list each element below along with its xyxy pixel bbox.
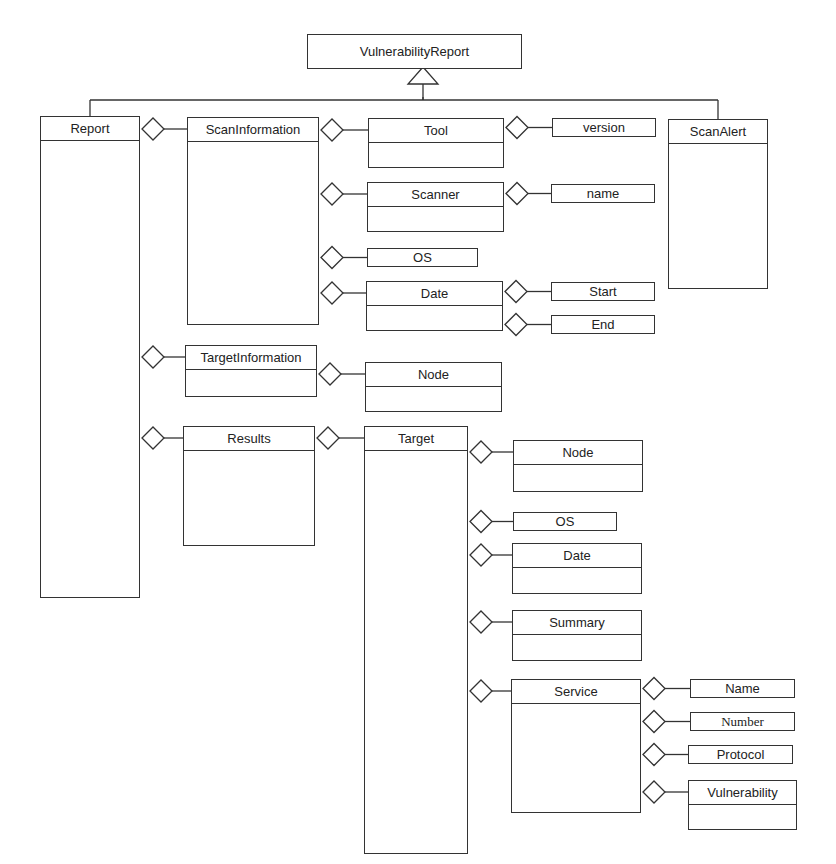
class-title: TargetInformation bbox=[186, 346, 316, 370]
class-version: version bbox=[552, 118, 656, 137]
aggregation-diamond-icon bbox=[321, 247, 343, 269]
class-scan-alert: ScanAlert bbox=[668, 119, 768, 289]
aggregation-diamond-icon bbox=[321, 282, 343, 304]
class-target: Target bbox=[364, 426, 468, 854]
class-start: Start bbox=[551, 282, 655, 301]
aggregation-diamond-icon bbox=[321, 119, 343, 141]
class-results: Results bbox=[183, 426, 315, 546]
class-title: VulnerabilityReport bbox=[308, 35, 521, 68]
class-title: Report bbox=[41, 117, 139, 141]
class-title: End bbox=[552, 316, 654, 333]
class-title: version bbox=[553, 119, 655, 136]
class-title: ScanInformation bbox=[188, 118, 318, 142]
class-title: Start bbox=[552, 283, 654, 300]
class-title: OS bbox=[514, 513, 616, 530]
aggregation-diamond-icon bbox=[505, 281, 527, 303]
class-title: Vulnerability bbox=[689, 781, 796, 805]
class-service: Service bbox=[511, 679, 641, 813]
class-os-scan: OS bbox=[367, 248, 478, 267]
aggregation-diamond-icon bbox=[643, 744, 665, 766]
class-target-information: TargetInformation bbox=[185, 345, 317, 397]
class-date-t: Date bbox=[512, 543, 642, 594]
aggregation-diamond-icon bbox=[505, 314, 527, 336]
aggregation-diamond-icon bbox=[317, 427, 339, 449]
aggregation-diamond-icon bbox=[142, 427, 164, 449]
class-title: Results bbox=[184, 427, 314, 451]
class-svc-number: Number bbox=[690, 712, 795, 731]
class-title: Tool bbox=[369, 119, 503, 143]
aggregation-diamond-icon bbox=[470, 611, 492, 633]
aggregation-diamond-icon bbox=[142, 346, 164, 368]
class-summary: Summary bbox=[512, 610, 642, 661]
class-title: Name bbox=[691, 680, 794, 697]
class-svc-vulnerability: Vulnerability bbox=[688, 780, 797, 830]
aggregation-diamond-icon bbox=[470, 511, 492, 533]
aggregation-diamond-icon bbox=[319, 363, 341, 385]
class-name: name bbox=[551, 184, 655, 203]
class-title: Scanner bbox=[368, 183, 503, 207]
class-title: ScanAlert bbox=[669, 120, 767, 144]
class-end: End bbox=[551, 315, 655, 334]
class-title: Target bbox=[365, 427, 467, 451]
class-title: Node bbox=[514, 441, 642, 465]
class-title: name bbox=[552, 185, 654, 202]
uml-class-diagram: VulnerabilityReport ReportScanInformatio… bbox=[0, 0, 836, 864]
aggregation-diamond-icon bbox=[506, 183, 528, 205]
aggregation-diamond-icon bbox=[470, 544, 492, 566]
class-title: Node bbox=[366, 363, 501, 387]
class-scan-information: ScanInformation bbox=[187, 117, 319, 325]
class-os-t: OS bbox=[513, 512, 617, 531]
class-report: Report bbox=[40, 116, 140, 598]
aggregation-diamond-icon bbox=[643, 781, 665, 803]
class-vulnerability-report: VulnerabilityReport bbox=[307, 34, 522, 69]
aggregation-diamond-icon bbox=[643, 711, 665, 733]
class-title: Protocol bbox=[689, 746, 792, 763]
class-node-ti: Node bbox=[365, 362, 502, 412]
aggregation-diamond-icon bbox=[506, 117, 528, 139]
class-title: OS bbox=[368, 249, 477, 266]
class-date-scan: Date bbox=[366, 281, 503, 331]
class-tool: Tool bbox=[368, 118, 504, 168]
aggregation-diamond-icon bbox=[470, 680, 492, 702]
class-title: Service bbox=[512, 680, 640, 704]
class-scanner: Scanner bbox=[367, 182, 504, 232]
class-svc-protocol: Protocol bbox=[688, 745, 793, 764]
class-title: Summary bbox=[513, 611, 641, 635]
aggregation-diamond-icon bbox=[643, 678, 665, 700]
class-title: Date bbox=[367, 282, 502, 306]
aggregation-diamond-icon bbox=[142, 118, 164, 140]
aggregation-diamond-icon bbox=[321, 183, 343, 205]
class-title: Date bbox=[513, 544, 641, 568]
class-svc-name: Name bbox=[690, 679, 795, 698]
class-title: Number bbox=[691, 713, 794, 730]
class-node-t: Node bbox=[513, 440, 643, 492]
aggregation-diamond-icon bbox=[470, 441, 492, 463]
generalization-triangle-icon bbox=[408, 67, 438, 84]
